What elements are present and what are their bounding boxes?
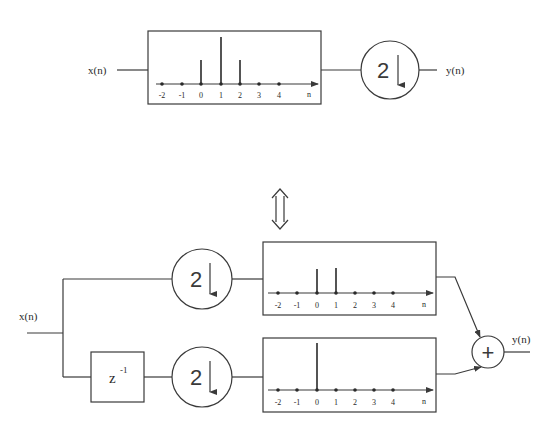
svg-text:3: 3 <box>257 91 261 100</box>
svg-text:1: 1 <box>334 398 338 407</box>
svg-text:1: 1 <box>334 301 338 310</box>
svg-text:-2: -2 <box>159 91 166 100</box>
svg-text:0: 0 <box>199 91 203 100</box>
svg-text:-2: -2 <box>275 301 282 310</box>
top-output-label: y(n) <box>446 64 465 77</box>
svg-text:-1: -1 <box>120 365 128 375</box>
svg-text:n: n <box>422 300 426 309</box>
svg-text:3: 3 <box>372 301 376 310</box>
top-input-label: x(n) <box>88 64 107 77</box>
top-axis-label: n <box>307 90 311 99</box>
svg-text:3: 3 <box>372 398 376 407</box>
svg-text:-1: -1 <box>179 91 186 100</box>
svg-text:2: 2 <box>377 58 389 83</box>
svg-text:4: 4 <box>391 301 395 310</box>
upper-to-adder-arrow <box>436 277 480 337</box>
upper-downsampler: 2 <box>172 249 232 309</box>
polyphase-diagram: x(n) -2 -1 0 1 2 3 4 <box>0 0 544 429</box>
delay-block: z -1 <box>91 352 144 402</box>
lower-to-adder-arrow <box>436 367 481 374</box>
bottom-system: x(n) 2 -2 -1 0 1 2 3 <box>19 242 531 412</box>
svg-text:4: 4 <box>391 398 395 407</box>
top-downsampler: 2 <box>361 41 419 99</box>
svg-text:n: n <box>422 397 426 406</box>
double-arrow-icon <box>272 189 288 229</box>
svg-text:2: 2 <box>190 267 202 292</box>
svg-text:2: 2 <box>238 91 242 100</box>
lower-downsampler: 2 <box>172 347 232 407</box>
svg-text:-1: -1 <box>294 398 301 407</box>
plus-icon: + <box>482 340 495 365</box>
svg-text:-1: -1 <box>294 301 301 310</box>
svg-text:0: 0 <box>315 301 319 310</box>
svg-text:2: 2 <box>353 398 357 407</box>
adder: + <box>472 336 504 368</box>
svg-text:2: 2 <box>190 365 202 390</box>
svg-text:-2: -2 <box>275 398 282 407</box>
svg-text:4: 4 <box>277 91 281 100</box>
svg-text:1: 1 <box>219 91 223 100</box>
svg-text:z: z <box>109 370 116 386</box>
bottom-input-label: x(n) <box>19 310 38 323</box>
top-filter-box: -2 -1 0 1 2 3 4 n <box>148 31 321 104</box>
bottom-output-label: y(n) <box>512 333 531 346</box>
upper-filter-box: -2 -1 0 1 2 3 4 n <box>263 242 436 315</box>
svg-text:2: 2 <box>353 301 357 310</box>
lower-filter-box: -2 -1 0 1 2 3 4 n <box>263 338 436 412</box>
svg-text:0: 0 <box>315 398 319 407</box>
top-system: x(n) -2 -1 0 1 2 3 4 <box>88 31 465 104</box>
